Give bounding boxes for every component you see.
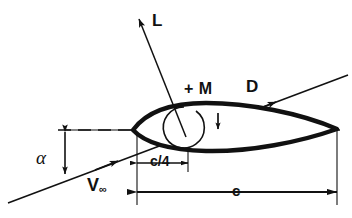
freestream-arrowhead-lower — [95, 161, 118, 170]
drag-label: D — [246, 78, 258, 95]
freestream-velocity-subscript: ∞ — [99, 183, 106, 195]
freestream-velocity-symbol: V — [87, 175, 99, 195]
lift-label: L — [152, 12, 162, 29]
angle-of-attack-label: α — [36, 148, 46, 167]
airfoil-force-diagram: L + M D α V∞ c/4 c — [0, 0, 352, 218]
pitching-moment-label: + M — [184, 81, 213, 97]
quarter-chord-label: c/4 — [150, 154, 169, 168]
freestream-velocity-label: V∞ — [87, 176, 106, 195]
chord-label: c — [232, 183, 240, 198]
diagram-canvas — [0, 0, 352, 218]
